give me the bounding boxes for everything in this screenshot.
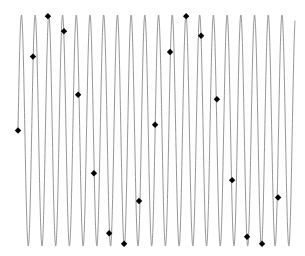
sample-marker [259,240,265,246]
sample-marker [30,53,36,59]
sample-marker [214,96,220,102]
sample-marker [15,127,21,133]
sample-marker [183,13,189,19]
sample-marker [167,49,173,55]
sample-marker [244,234,250,240]
sample-marker [152,122,158,128]
sample-marker [75,91,81,97]
sample-marker [121,240,127,246]
aliasing-chart [0,0,305,256]
sample-marker [45,13,51,19]
sample-marker [91,170,97,176]
sample-marker [275,194,281,200]
sample-marker [136,198,142,204]
sample-marker [229,177,235,183]
signal-line [18,15,295,246]
